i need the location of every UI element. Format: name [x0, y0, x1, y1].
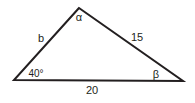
angle-40-label: 40° — [28, 68, 43, 79]
angle-beta-label: β — [153, 68, 159, 80]
triangle-diagram: α b 15 40° β 20 — [0, 0, 195, 103]
angle-alpha-label: α — [76, 11, 83, 23]
side-b-label: b — [38, 32, 44, 44]
side-20-label: 20 — [86, 84, 98, 96]
side-15-label: 15 — [131, 31, 143, 43]
